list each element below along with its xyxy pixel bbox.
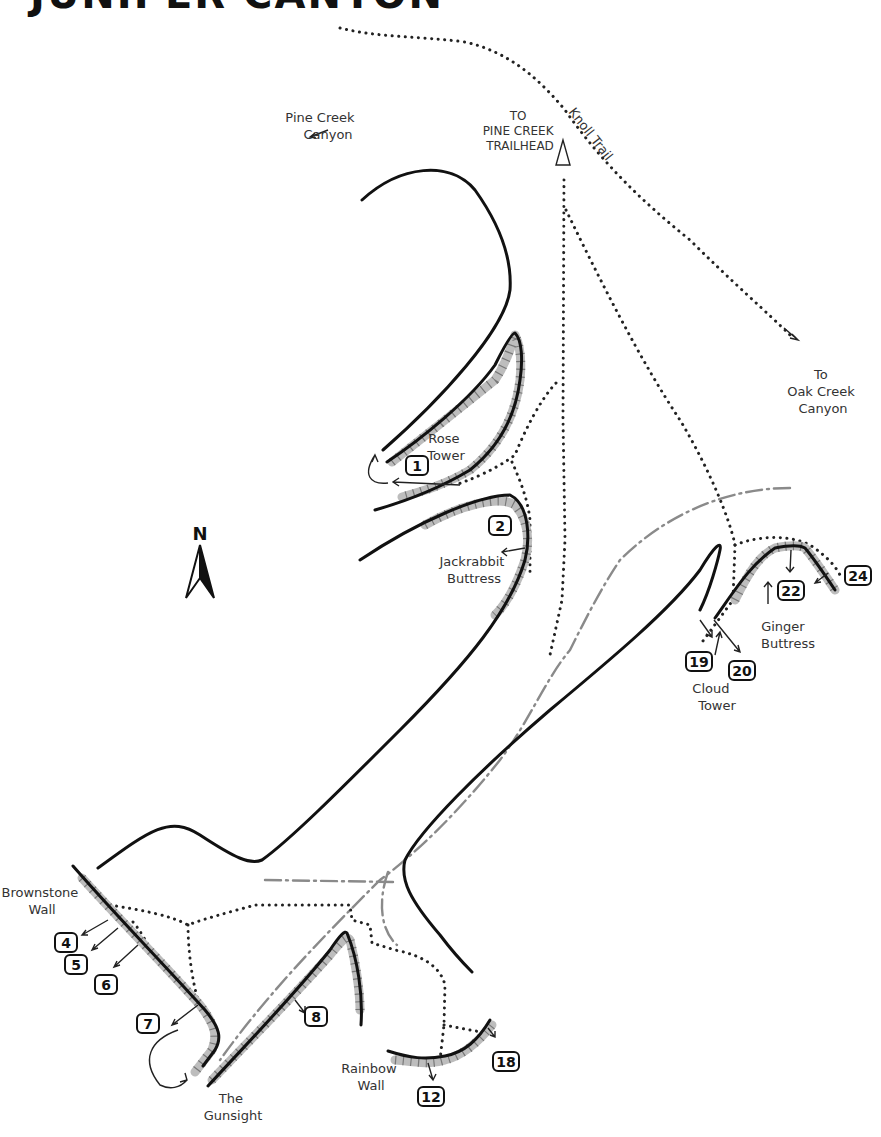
route-badge-22[interactable]: 22 xyxy=(778,581,804,600)
route-badge-7[interactable]: 7 xyxy=(137,1014,159,1033)
svg-text:1: 1 xyxy=(412,458,422,474)
place-labels: Pine Creek Canyon TO PINE CREEK TRAILHEA… xyxy=(1,105,858,1123)
north-label: N xyxy=(192,523,207,544)
svg-text:7: 7 xyxy=(143,1016,153,1032)
label-to-trailhead: TO PINE CREEK TRAILHEAD xyxy=(483,109,558,153)
label-knoll-trail: Knoll Trail xyxy=(566,105,616,164)
north-arrow-icon: N xyxy=(186,523,214,598)
svg-text:22: 22 xyxy=(781,583,800,599)
label-rainbow: Rainbow Wall xyxy=(341,1061,401,1093)
route-badge-24[interactable]: 24 xyxy=(845,566,871,585)
svg-text:24: 24 xyxy=(848,568,868,584)
label-oak-creek: To Oak Creek Canyon xyxy=(787,367,859,416)
svg-text:5: 5 xyxy=(71,957,81,973)
crag-map: JUNIPER CANYON xyxy=(0,0,881,1137)
label-pine-creek-canyon: Pine Creek Canyon xyxy=(285,110,358,142)
label-cloud-tower: Cloud Tower xyxy=(692,681,736,713)
svg-text:18: 18 xyxy=(496,1054,515,1070)
route-badge-18[interactable]: 18 xyxy=(493,1052,519,1071)
svg-text:20: 20 xyxy=(732,663,752,679)
route-badge-1[interactable]: 1 xyxy=(406,456,428,475)
route-badge-20[interactable]: 20 xyxy=(729,661,755,680)
label-ginger: Ginger Buttress xyxy=(761,619,815,651)
route-badge-2[interactable]: 2 xyxy=(489,516,511,535)
svg-text:2: 2 xyxy=(495,518,505,534)
label-brownstone: Brownstone Wall xyxy=(1,885,82,917)
svg-text:4: 4 xyxy=(61,935,71,951)
route-badge-6[interactable]: 6 xyxy=(95,975,117,994)
washes xyxy=(220,488,790,1060)
route-badge-4[interactable]: 4 xyxy=(55,933,77,952)
svg-text:19: 19 xyxy=(689,654,708,670)
svg-text:8: 8 xyxy=(311,1009,321,1025)
oak-creek-arrow-icon xyxy=(784,328,798,340)
map-title: JUNIPER CANYON xyxy=(27,0,444,17)
route-badge-5[interactable]: 5 xyxy=(65,955,87,974)
svg-text:12: 12 xyxy=(421,1089,440,1105)
label-jackrabbit: Jackrabbit Buttress xyxy=(438,554,508,586)
label-gunsight: The Gunsight xyxy=(204,1091,263,1123)
route-badge-8[interactable]: 8 xyxy=(305,1007,327,1026)
svg-text:6: 6 xyxy=(101,977,111,993)
route-badge-19[interactable]: 19 xyxy=(686,652,712,671)
route-badge-12[interactable]: 12 xyxy=(418,1087,444,1106)
trails xyxy=(110,28,840,1060)
label-rose-tower: Rose Tower xyxy=(426,431,465,463)
route-arrows xyxy=(82,130,828,1088)
trailhead-marker-icon xyxy=(556,140,570,165)
